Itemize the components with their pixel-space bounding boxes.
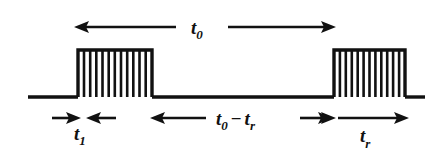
period-label: t0 [191,17,203,42]
period-measure-annotation: t0 [74,17,336,42]
second-burst-pulses [340,50,399,97]
pulse-width-measure-annotation: t1 [52,112,116,148]
pulse-width-label: t1 [74,123,86,148]
burst-measure-annotation: tr [318,112,409,151]
burst-label: tr [360,125,371,151]
pulse-timing-figure: t0 [0,0,448,152]
gap-measure-annotation: t0−tr [150,108,336,133]
waveform-trace [28,50,425,97]
pulse-timing-canvas: t0 [0,0,448,152]
first-burst-pulses [84,50,146,97]
gap-label: t0−tr [216,108,256,133]
